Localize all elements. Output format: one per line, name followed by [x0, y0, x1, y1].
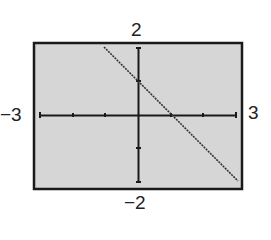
ymax-label: 2	[131, 20, 142, 39]
xmin-label: −3	[0, 105, 22, 124]
xmax-label: 3	[248, 103, 259, 122]
ymin-label: −2	[124, 193, 146, 212]
